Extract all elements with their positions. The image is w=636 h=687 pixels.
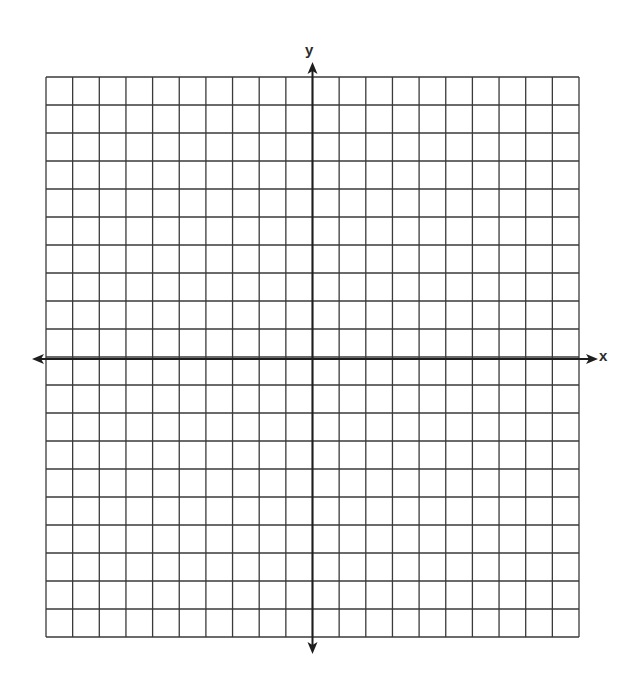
axes <box>32 62 598 654</box>
x-axis-label: x <box>599 348 607 363</box>
y-axis-label: y <box>305 42 313 57</box>
coordinate-plane <box>0 0 636 687</box>
